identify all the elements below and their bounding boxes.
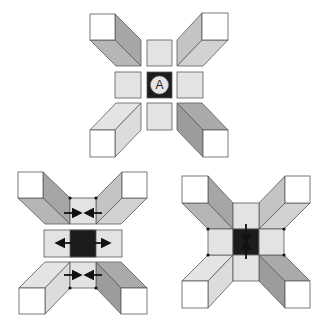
corner-dot-3	[94, 286, 97, 289]
diagrams-root: A	[18, 13, 310, 314]
prism-top-right-cap	[122, 172, 147, 198]
center-right-square	[177, 72, 203, 98]
center-bottom-square	[147, 103, 172, 130]
tile-movement-diagram: A	[0, 0, 328, 331]
prism-top-left	[182, 176, 233, 229]
prism-bottom-left	[90, 103, 141, 157]
center-top-square	[147, 40, 172, 66]
corner-dot-2	[68, 286, 71, 289]
prism-bottom-right-cap	[203, 130, 228, 157]
prism-bottom-left-cap	[19, 288, 45, 314]
corner-dot-0	[68, 196, 71, 199]
prism-bottom-right	[177, 103, 228, 157]
prism-bottom-right	[96, 262, 147, 314]
prism-top-left-cap	[18, 172, 43, 198]
prism-top-left-cap	[90, 14, 115, 40]
corner-dot-1	[282, 227, 285, 230]
prism-top-left	[18, 172, 70, 224]
prism-bottom-left-cap	[182, 281, 208, 308]
prism-top-left	[90, 14, 141, 66]
prism-bottom-left-cap	[90, 130, 115, 157]
prism-bottom-right	[259, 255, 310, 308]
corner-dot-3	[282, 253, 285, 256]
right-square	[259, 229, 284, 255]
prism-top-right	[177, 13, 228, 66]
prism-top-left-cap	[182, 176, 208, 203]
prism-top-right	[259, 176, 310, 229]
prism-bottom-right-cap	[285, 281, 310, 308]
center-left-square	[115, 72, 141, 98]
prism-bottom-left	[19, 262, 70, 314]
center-label: A	[155, 78, 163, 92]
prism-bottom-left	[182, 255, 233, 308]
top-diagram: A	[90, 13, 228, 157]
left-square	[208, 229, 233, 255]
bottom-right-diagram	[182, 176, 310, 308]
prism-top-right	[96, 172, 147, 224]
corner-dot-0	[206, 227, 209, 230]
middle-dark-square	[70, 230, 96, 257]
bottom-left-diagram	[18, 172, 147, 314]
prism-top-right-cap	[285, 176, 310, 203]
top-center-square	[70, 198, 96, 224]
prism-bottom-right-cap	[121, 288, 147, 314]
prism-top-right-cap	[202, 13, 228, 40]
corner-dot-2	[206, 253, 209, 256]
corner-dot-1	[94, 196, 97, 199]
